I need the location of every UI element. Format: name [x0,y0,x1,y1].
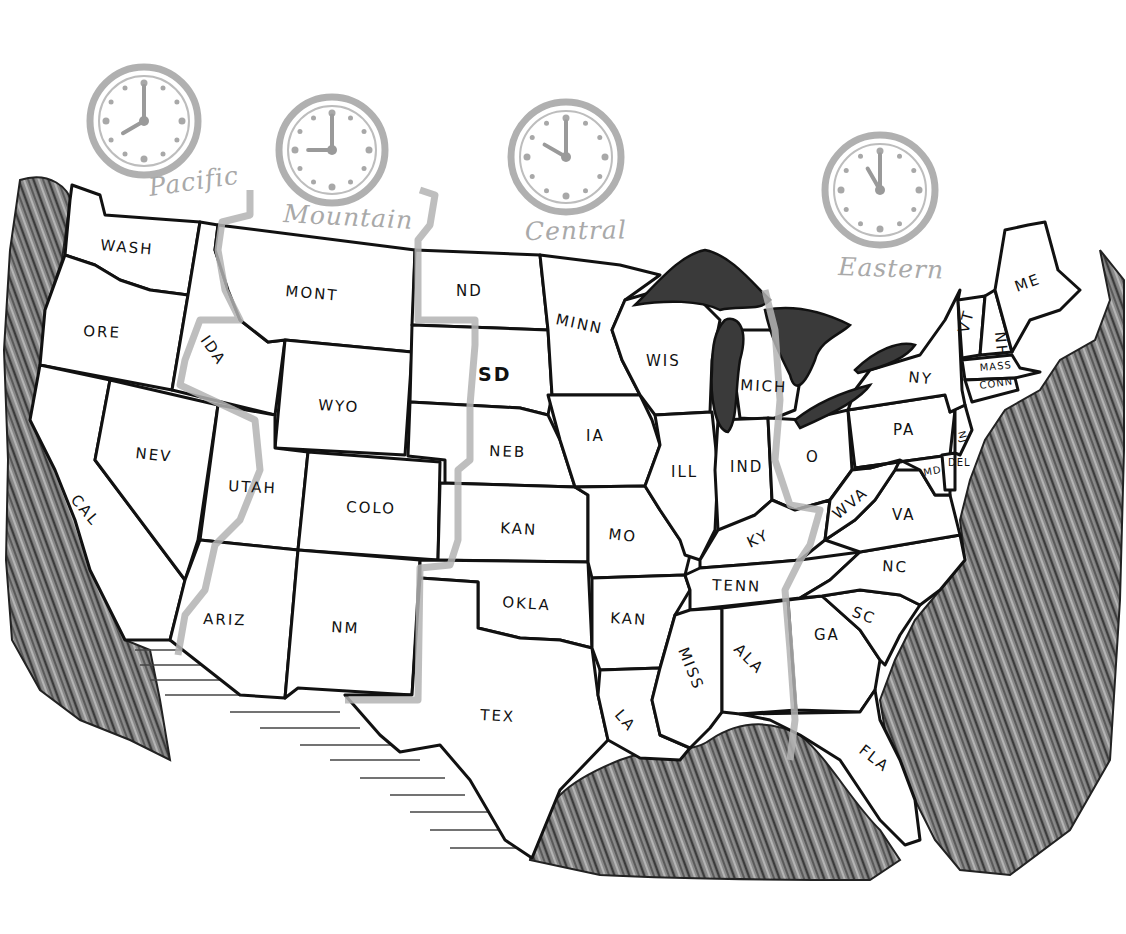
state-label-ne: NEB [489,442,527,461]
state-label-ny: NY [908,368,934,388]
state-label-de: DEL [948,457,971,468]
state-label-nm: NM [331,618,360,637]
state-label-pa: PA [893,421,915,439]
state-label-il: ILL [671,463,698,481]
state-label-ok: OKLA [502,593,552,614]
us-time-zone-map: PacificMountainCentralEastern WASHORECAL… [0,0,1126,934]
clock-eastern [825,135,935,245]
tz-label-eastern: Eastern [837,252,945,285]
state-label-mi: MICH [740,376,788,396]
state-label-tx: TEX [479,706,516,726]
state-label-ia: IA [586,427,605,445]
clock-central [511,102,621,212]
state-label-mo: MO [608,525,638,546]
state-label-or: ORE [83,322,122,342]
state-label-tn: TENN [711,576,762,596]
time-zone-clocks [90,67,935,245]
state-label-wy: WYO [318,396,360,416]
state-label-nc: NC [882,557,909,576]
state-label-nv: NEV [135,444,174,466]
clock-mountain [279,97,385,203]
state-label-ks: KAN [500,519,538,539]
state-label-oh: O [806,448,820,466]
tz-label-central: Central [525,215,627,246]
state-label-nd: ND [456,282,483,300]
state-label-nh: NH [991,331,1011,359]
state-label-ut: UTAH [228,477,277,498]
state-label-ar: KAN [610,609,648,629]
state-label-in: IND [730,458,763,476]
state-label-sd: SD [478,363,511,385]
tz-label-mountain: Mountain [282,199,414,235]
state-label-ga: GA [814,626,840,644]
state-label-az: ARIZ [203,610,247,630]
clock-pacific [90,67,198,175]
state-label-va: VA [892,506,916,524]
state-label-wi: WIS [646,352,681,370]
state-label-co: COLO [346,498,397,518]
